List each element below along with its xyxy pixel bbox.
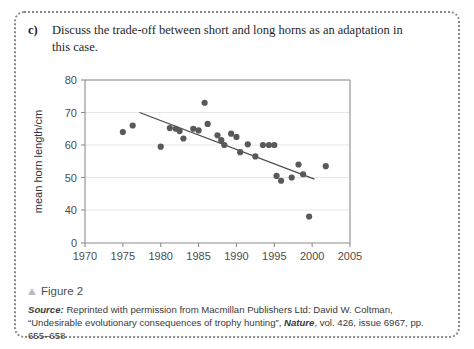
data-point	[300, 171, 306, 177]
x-axis-title: year	[207, 265, 229, 266]
data-point	[237, 149, 243, 155]
x-tick-label: 1975	[111, 250, 135, 262]
page-root: c) Discuss the trade-off between short a…	[0, 0, 474, 349]
question-block: c) Discuss the trade-off between short a…	[28, 22, 428, 55]
data-point	[167, 125, 173, 131]
data-point	[221, 142, 227, 148]
x-tick-label: 1985	[186, 250, 210, 262]
data-point	[195, 127, 201, 133]
x-tick-label: 1970	[73, 250, 97, 262]
data-point	[295, 161, 301, 167]
question-text: Discuss the trade-off between short and …	[52, 22, 417, 55]
y-tick-label: 0	[71, 237, 77, 249]
source-journal: Nature	[284, 317, 314, 328]
triangle-bullet-icon	[28, 288, 36, 295]
data-point	[278, 178, 284, 184]
data-point	[273, 173, 279, 179]
data-point	[158, 144, 164, 150]
data-point	[214, 132, 220, 138]
x-tick-label: 1995	[262, 250, 286, 262]
data-point	[245, 141, 251, 147]
data-point	[323, 163, 329, 169]
data-point	[205, 121, 211, 127]
question-label: c)	[28, 22, 52, 39]
y-axis-title: mean horn length/cm	[32, 110, 44, 213]
figure-caption: Figure 2	[28, 285, 83, 297]
data-point	[177, 128, 183, 134]
x-tick-label: 2005	[338, 250, 362, 262]
data-point	[130, 122, 136, 128]
data-point	[306, 213, 312, 219]
scatter-plot-svg: 0405060708019701975198019851990199520002…	[28, 66, 428, 266]
y-tick-label: 70	[65, 107, 77, 119]
data-point	[190, 126, 196, 132]
y-tick-label: 60	[65, 139, 77, 151]
x-tick-label: 1990	[224, 250, 248, 262]
data-point	[228, 131, 234, 137]
data-point	[289, 174, 295, 180]
x-tick-label: 1980	[148, 250, 172, 262]
data-point	[120, 129, 126, 135]
source-label: Source:	[28, 304, 64, 315]
data-point	[252, 153, 258, 159]
y-tick-label: 50	[65, 172, 77, 184]
data-point	[260, 142, 266, 148]
data-point	[180, 135, 186, 141]
figure-caption-text: Figure 2	[41, 285, 83, 297]
y-tick-label: 40	[65, 204, 77, 216]
y-tick-label: 80	[65, 74, 77, 86]
data-point	[202, 100, 208, 106]
figure-chart: 0405060708019701975198019851990199520002…	[28, 66, 428, 266]
source-note: Source: Reprinted with permission from M…	[28, 303, 432, 342]
data-point	[266, 142, 272, 148]
data-point	[271, 142, 277, 148]
data-point	[233, 134, 239, 140]
x-tick-label: 2000	[300, 250, 324, 262]
